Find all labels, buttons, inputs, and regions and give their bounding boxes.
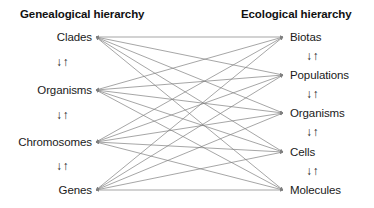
node-left-genes: Genes [59, 184, 92, 196]
edge-genes-to-cells [96, 152, 283, 190]
edge-organisms-to-biotas [96, 37, 283, 90]
vertical-arrows-icon: ↓↑ [306, 88, 319, 100]
edge-organisms-to-cells [96, 90, 283, 152]
right-column-title: Ecological hierarchy [241, 8, 352, 20]
vertical-arrows-icon: ↓↑ [56, 160, 69, 172]
node-right-populations: Populations [290, 69, 349, 81]
edge-chromosomes-to-molecules [96, 142, 283, 190]
edge-organisms-to-populations [96, 75, 283, 90]
edge-genes-to-organisms [96, 113, 283, 190]
edge-chromosomes-to-cells [96, 142, 283, 152]
node-left-clades: Clades [57, 31, 92, 43]
vertical-arrows-icon: ↓↑ [306, 165, 319, 177]
vertical-arrows-icon: ↓↑ [306, 50, 319, 62]
edge-chromosomes-to-biotas [96, 37, 283, 142]
node-right-molecules: Molecules [290, 184, 341, 196]
edge-organisms-to-molecules [96, 90, 283, 190]
hierarchy-diagram: Genealogical hierarchy Ecological hierar… [0, 0, 374, 208]
vertical-arrows-icon: ↓↑ [56, 56, 69, 68]
edge-chromosomes-to-organisms [96, 113, 283, 142]
node-right-cells: Cells [290, 146, 315, 158]
vertical-arrows-icon: ↓↑ [306, 126, 319, 138]
edge-chromosomes-to-populations [96, 75, 283, 142]
edge-group [96, 37, 283, 190]
left-column-title: Genealogical hierarchy [20, 8, 144, 20]
edge-clades-to-cells [96, 37, 283, 152]
node-right-biotas: Biotas [290, 31, 321, 43]
edge-clades-to-populations [96, 37, 283, 75]
edge-genes-to-populations [96, 75, 283, 190]
node-left-chromosomes: Chromosomes [18, 136, 92, 148]
node-right-organisms: Organisms [290, 107, 345, 119]
vertical-arrows-icon: ↓↑ [56, 109, 69, 121]
node-left-organisms: Organisms [37, 84, 92, 96]
